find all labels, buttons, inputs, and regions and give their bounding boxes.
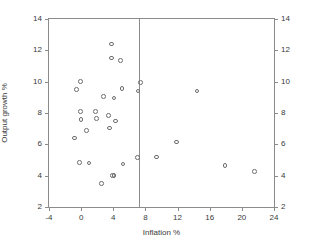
x-axis-tick-label: 12 (173, 214, 182, 222)
data-point (252, 169, 257, 174)
y-axis-tick-left (45, 19, 49, 20)
data-point (77, 160, 82, 165)
x-axis-tick-label: 24 (270, 214, 279, 222)
data-point (101, 94, 106, 99)
y-axis-tick-left (45, 176, 49, 177)
x-axis-tick (49, 207, 50, 211)
y-axis-tick-label-left: 12 (33, 46, 42, 54)
x-axis-tick (81, 207, 82, 211)
x-axis-tick (145, 207, 146, 211)
y-axis-tick-right (274, 144, 278, 145)
y-axis-tick-label-left: 4 (38, 172, 42, 180)
y-axis-tick-right (274, 50, 278, 51)
data-point (109, 56, 114, 61)
y-axis-tick-label-right: 14 (281, 15, 290, 23)
y-axis-tick-label-left: 10 (33, 78, 42, 86)
y-axis-tick-label-left: 2 (38, 203, 42, 211)
data-point (138, 80, 143, 85)
scatter-plot-figure: 24681012142468101214-404812162024 Inflat… (0, 0, 314, 249)
reference-line-vertical (139, 19, 140, 207)
y-axis-tick-label-right: 2 (281, 203, 285, 211)
x-axis-title: Inflation % (48, 228, 275, 237)
y-axis-tick-right (274, 113, 278, 114)
x-axis-tick-label: 4 (111, 214, 115, 222)
data-point (109, 42, 114, 47)
data-point (112, 173, 117, 178)
data-point (72, 136, 77, 141)
x-axis-tick-label: 8 (143, 214, 147, 222)
y-axis-tick-label-right: 10 (281, 78, 290, 86)
data-point (120, 86, 125, 91)
x-axis-tick-label: -4 (45, 214, 52, 222)
data-point (93, 109, 98, 114)
y-axis-tick-left (45, 50, 49, 51)
x-axis-tick (210, 207, 211, 211)
data-point (112, 96, 117, 101)
data-point (87, 161, 92, 166)
data-point (99, 181, 104, 186)
x-axis-tick (242, 207, 243, 211)
data-point (78, 79, 83, 84)
data-point (121, 162, 126, 167)
y-axis-tick-right (274, 176, 278, 177)
data-point (223, 163, 228, 168)
data-point (79, 117, 84, 122)
data-point (154, 155, 159, 160)
y-axis-tick-label-right: 6 (281, 140, 285, 148)
data-point (107, 126, 112, 131)
y-axis-tick-left (45, 82, 49, 83)
y-axis-tick-label-left: 14 (33, 15, 42, 23)
x-axis-tick (274, 207, 275, 211)
data-point (94, 116, 99, 121)
data-point (106, 113, 111, 118)
data-point (174, 140, 179, 145)
data-point (78, 109, 83, 114)
data-point (195, 89, 200, 94)
data-point (118, 58, 123, 63)
x-axis-tick-label: 0 (79, 214, 83, 222)
x-axis-tick (113, 207, 114, 211)
y-axis-tick-left (45, 113, 49, 114)
data-point (84, 128, 89, 133)
plot-area: 24681012142468101214-404812162024 (48, 18, 275, 208)
y-axis-tick-label-right: 8 (281, 109, 285, 117)
y-axis-tick-label-right: 4 (281, 172, 285, 180)
data-point (135, 155, 140, 160)
x-axis-tick-label: 16 (205, 214, 214, 222)
data-point (113, 119, 118, 124)
data-point (74, 87, 79, 92)
x-axis-tick (178, 207, 179, 211)
x-axis-tick-label: 20 (237, 214, 246, 222)
y-axis-title: Output growth % (0, 18, 12, 208)
y-axis-tick-label-left: 8 (38, 109, 42, 117)
y-axis-tick-label-left: 6 (38, 140, 42, 148)
y-axis-tick-left (45, 144, 49, 145)
y-axis-tick-right (274, 19, 278, 20)
y-axis-tick-right (274, 82, 278, 83)
y-axis-tick-label-right: 12 (281, 46, 290, 54)
